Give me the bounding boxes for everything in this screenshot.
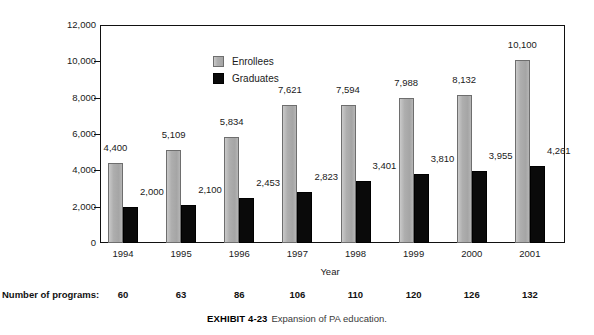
bar-value-label-graduates: 4,261 bbox=[547, 146, 571, 156]
bar-enrollees bbox=[341, 105, 356, 243]
bar-enrollees bbox=[457, 95, 472, 243]
bar-value-label-enrollees: 10,100 bbox=[508, 40, 537, 50]
bar-graduates bbox=[181, 205, 196, 243]
bar-value-label-enrollees: 7,594 bbox=[336, 85, 360, 95]
caption-description: Expansion of PA education. bbox=[271, 313, 387, 324]
y-axis-tick-label: 0 bbox=[36, 238, 96, 248]
x-axis-labels: 19941995199619971998199920002001 bbox=[100, 248, 565, 262]
exhibit-figure: 12,00010,0008,0006,0004,0002,0000 Enroll… bbox=[0, 0, 594, 335]
y-axis-tick-label: 2,000 bbox=[36, 202, 96, 212]
bar-group: 8,1323,955 bbox=[457, 25, 487, 243]
bar-value-label-enrollees: 5,834 bbox=[220, 117, 244, 127]
number-of-programs-value: 86 bbox=[209, 289, 269, 301]
x-axis-title: Year bbox=[0, 266, 594, 277]
number-of-programs-label: Number of programs: bbox=[2, 289, 99, 301]
bar-group: 5,1092,100 bbox=[166, 25, 196, 243]
bar-value-label-enrollees: 5,109 bbox=[162, 130, 186, 140]
bar-value-label-enrollees: 7,988 bbox=[394, 78, 418, 88]
number-of-programs-row: Number of programs: 60638610611012012613… bbox=[0, 289, 594, 303]
number-of-programs-value: 63 bbox=[151, 289, 211, 301]
y-axis-labels: 12,00010,0008,0006,0004,0002,0000 bbox=[30, 25, 96, 243]
bar-graduates bbox=[239, 198, 254, 243]
y-axis-tick-label: 4,000 bbox=[36, 165, 96, 175]
y-axis-tick-label: 10,000 bbox=[36, 56, 96, 66]
bar-value-label-graduates: 2,000 bbox=[140, 187, 164, 197]
bar-value-label-graduates: 2,453 bbox=[256, 178, 280, 188]
bar-group: 5,8342,453 bbox=[224, 25, 254, 243]
bar-value-label-graduates: 2,100 bbox=[198, 185, 222, 195]
bar-graduates bbox=[472, 171, 487, 243]
x-axis-tick-label: 1997 bbox=[267, 248, 327, 260]
bar-group: 4,4002,000 bbox=[108, 25, 138, 243]
bar-value-label-graduates: 3,401 bbox=[373, 161, 397, 171]
bar-value-label-enrollees: 4,400 bbox=[104, 143, 128, 153]
x-axis-tick-label: 2001 bbox=[500, 248, 560, 260]
bar-enrollees bbox=[224, 137, 239, 243]
x-axis-tick-label: 1995 bbox=[151, 248, 211, 260]
bar-value-label-graduates: 3,810 bbox=[431, 154, 455, 164]
bar-graduates bbox=[530, 166, 545, 243]
bar-value-label-enrollees: 7,621 bbox=[278, 85, 302, 95]
bar-group: 10,1004,261 bbox=[515, 25, 545, 243]
bar-enrollees bbox=[166, 150, 181, 243]
number-of-programs-value: 106 bbox=[267, 289, 327, 301]
number-of-programs-value: 120 bbox=[384, 289, 444, 301]
bar-value-label-graduates: 2,823 bbox=[314, 172, 338, 182]
number-of-programs-value: 110 bbox=[326, 289, 386, 301]
bar-graduates bbox=[356, 181, 371, 243]
bar-enrollees bbox=[108, 163, 123, 243]
bar-value-label-graduates: 3,955 bbox=[489, 151, 513, 161]
bar-enrollees bbox=[282, 105, 297, 243]
y-axis-tick-label: 12,000 bbox=[36, 20, 96, 30]
bar-enrollees bbox=[515, 60, 530, 243]
y-axis-tick-label: 8,000 bbox=[36, 93, 96, 103]
number-of-programs-value: 60 bbox=[93, 289, 153, 301]
x-axis-tick-label: 1996 bbox=[209, 248, 269, 260]
x-axis-tick-label: 2000 bbox=[442, 248, 502, 260]
x-axis-tick-label: 1998 bbox=[326, 248, 386, 260]
x-axis-tick-label: 1999 bbox=[384, 248, 444, 260]
figure-caption: EXHIBIT 4-23Expansion of PA education. bbox=[0, 313, 594, 325]
bar-groups: 4,4002,0005,1092,1005,8342,4537,6212,823… bbox=[100, 25, 565, 243]
bar-value-label-enrollees: 8,132 bbox=[452, 75, 476, 85]
number-of-programs-value: 126 bbox=[442, 289, 502, 301]
bar-group: 7,5943,401 bbox=[341, 25, 371, 243]
y-axis-tick-label: 6,000 bbox=[36, 129, 96, 139]
bar-graduates bbox=[414, 174, 429, 243]
bar-group: 7,9883,810 bbox=[399, 25, 429, 243]
bar-graduates bbox=[123, 207, 138, 243]
number-of-programs-value: 132 bbox=[500, 289, 560, 301]
caption-exhibit-number: EXHIBIT 4-23 bbox=[207, 313, 267, 324]
bar-group: 7,6212,823 bbox=[282, 25, 312, 243]
bar-graduates bbox=[297, 192, 312, 243]
x-axis-tick-label: 1994 bbox=[93, 248, 153, 260]
bar-enrollees bbox=[399, 98, 414, 243]
